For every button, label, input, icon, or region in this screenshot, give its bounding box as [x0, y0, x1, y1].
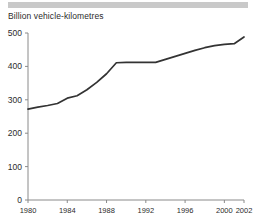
x-tick-label: 1980 [20, 206, 37, 215]
x-tick-label: 2002 [236, 206, 253, 215]
chart-plot-area: 0100200300400500 19801984198819921996200… [0, 0, 256, 223]
chart-figure: Billion vehicle-kilometres 0100200300400… [0, 0, 256, 223]
y-tick-label: 200 [8, 128, 22, 138]
y-tick-label: 0 [17, 195, 22, 205]
y-axis: 0100200300400500 [8, 28, 28, 205]
data-line [28, 37, 244, 109]
y-tick-label: 500 [8, 28, 22, 38]
y-tick-label: 100 [8, 162, 22, 172]
x-tick-label: 1988 [98, 206, 115, 215]
x-tick-label: 1992 [137, 206, 154, 215]
line-chart-svg: 0100200300400500 19801984198819921996200… [0, 0, 256, 223]
x-tick-label: 1996 [177, 206, 194, 215]
x-tick-label: 2000 [216, 206, 233, 215]
x-axis: 1980198419881992199620002002 [20, 200, 253, 215]
data-series-group [28, 37, 244, 109]
x-tick-label: 1984 [59, 206, 76, 215]
y-tick-label: 400 [8, 61, 22, 71]
y-tick-label: 300 [8, 95, 22, 105]
